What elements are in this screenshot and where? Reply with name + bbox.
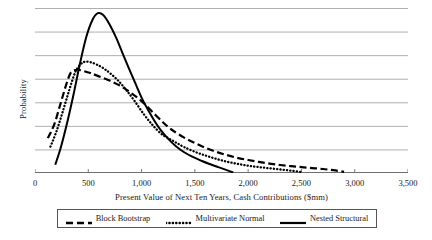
x-tick-label: 2,500 (281, 177, 321, 189)
series-line-multivariate-normal (50, 62, 301, 172)
x-axis-title: Present Value of Next Ten Years, Cash Co… (35, 192, 408, 202)
legend-label: Block Bootstrap (96, 214, 151, 224)
x-tick-label: 1,000 (122, 177, 162, 189)
x-tick-label: 3,000 (335, 177, 375, 189)
series-line-nested-structural (55, 13, 233, 173)
series-lines (48, 13, 344, 173)
legend-swatch-solid (280, 214, 306, 224)
legend-swatch-dashed (66, 214, 92, 224)
plot-svg (35, 8, 408, 173)
legend-swatch-dotted (166, 214, 192, 224)
plot-area (35, 8, 408, 173)
chart-container: Probability 05001,0001,5002,0002,5003,00… (0, 0, 432, 240)
legend-entry-multivariate-normal[interactable]: Multivariate Normal (164, 214, 267, 224)
x-tick-label: 3,500 (388, 177, 428, 189)
x-tick-label: 2,000 (228, 177, 268, 189)
legend-entry-block-bootstrap[interactable]: Block Bootstrap (64, 214, 153, 224)
chart-legend: Block BootstrapMultivariate NormalNested… (57, 209, 377, 228)
series-line-block-bootstrap (48, 70, 344, 172)
y-axis-title-wrap: Probability (0, 0, 36, 180)
x-axis-line (35, 169, 408, 173)
legend-label: Nested Structural (310, 214, 368, 224)
x-tick-label: 0 (15, 177, 55, 189)
y-axis-title: Probability (16, 39, 30, 119)
x-tick-label: 1,500 (175, 177, 215, 189)
x-tick-label: 500 (68, 177, 108, 189)
legend-entry-nested-structural[interactable]: Nested Structural (278, 214, 370, 224)
legend-label: Multivariate Normal (196, 214, 265, 224)
gridlines (35, 9, 408, 150)
x-tick-labels: 05001,0001,5002,0002,5003,0003,500 (0, 177, 432, 191)
